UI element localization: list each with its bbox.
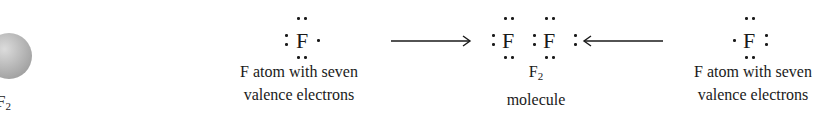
electron-dot [545, 56, 548, 59]
electron-dot [765, 43, 768, 46]
f2-model-label: F2 [0, 92, 11, 112]
electron-dot [511, 17, 514, 20]
electron-dot [285, 43, 288, 46]
electron-dot [574, 34, 577, 37]
electron-dot [733, 39, 736, 42]
electron-dot [552, 56, 555, 59]
electron-dot [752, 56, 755, 59]
fluorine-symbol-1: F [502, 30, 514, 52]
electron-dot [752, 17, 755, 20]
shared-electron-dot [533, 34, 536, 37]
right-atom-caption-line2: valence electrons [668, 83, 833, 106]
fluorine-symbol-2: F [543, 30, 555, 52]
product-caption: F2 molecule [486, 60, 586, 111]
f2-model-label-subscript: 2 [5, 100, 11, 112]
electron-dot [285, 34, 288, 37]
right-atom-caption: F atom with seven valence electrons [668, 60, 833, 106]
electron-dot [545, 17, 548, 20]
electron-dot [574, 43, 577, 46]
electron-dot [745, 17, 748, 20]
electron-dot [504, 17, 507, 20]
shared-electron-dot [533, 43, 536, 46]
fluorine-symbol: F [743, 30, 755, 52]
electron-dot [552, 17, 555, 20]
electron-dot [304, 56, 307, 59]
right-atom-caption-line1: F atom with seven [668, 60, 833, 83]
electron-dot [492, 34, 495, 37]
electron-dot [317, 39, 320, 42]
electron-dot [504, 56, 507, 59]
right-arrow-icon [390, 30, 472, 52]
product-formula-subscript: 2 [538, 70, 544, 82]
left-atom-caption-line1: F atom with seven [214, 60, 384, 83]
fluorine-symbol: F [296, 30, 308, 52]
electron-dot [492, 43, 495, 46]
left-atom-caption: F atom with seven valence electrons [214, 60, 384, 106]
product-formula-symbol: F [529, 63, 538, 80]
product-formula: F2 [486, 60, 586, 88]
electron-dot [297, 17, 300, 20]
electron-dot [511, 56, 514, 59]
left-atom-caption-line2: valence electrons [214, 83, 384, 106]
electron-dot [745, 56, 748, 59]
product-caption-text: molecule [486, 88, 586, 111]
electron-dot [765, 34, 768, 37]
left-f-atom-lewis: F [280, 14, 324, 62]
electron-dot [297, 56, 300, 59]
electron-dot [304, 17, 307, 20]
f2-sphere-model [0, 33, 32, 79]
f2-molecule-lewis: F F [488, 14, 584, 62]
left-arrow-icon [582, 30, 664, 52]
right-f-atom-lewis: F [730, 14, 774, 62]
